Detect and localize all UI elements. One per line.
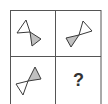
gray-triangle	[28, 67, 41, 81]
cell-top-left-bowtie	[17, 20, 41, 46]
puzzle-grid: ?	[0, 0, 108, 104]
white-triangle	[17, 20, 30, 33]
white-triangle	[16, 81, 28, 95]
cell-top-right-bowtie	[66, 21, 92, 47]
cell-bottom-left-bowtie	[16, 67, 41, 95]
gray-triangle	[66, 35, 79, 47]
question-mark: ?	[56, 66, 101, 94]
gray-triangle	[30, 32, 41, 46]
white-triangle	[79, 21, 92, 35]
